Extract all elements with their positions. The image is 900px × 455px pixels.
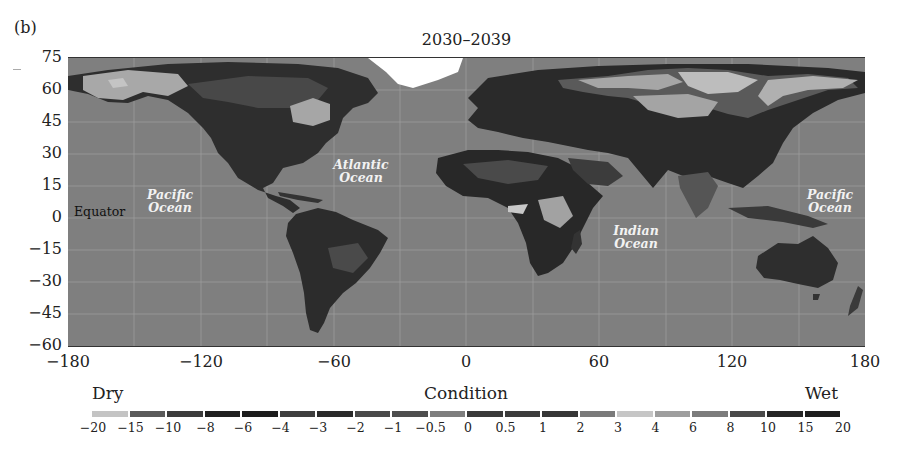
y-tick: −15 [20, 241, 62, 257]
x-tick: 0 [436, 352, 496, 371]
pacific-ocean-label-west: PacificOcean [140, 188, 200, 214]
world-map-plot: Equator PacificOcean AtlanticOcean India… [68, 57, 865, 347]
colorbar-tick: −20 [75, 420, 111, 435]
colorbar-tick: 10 [750, 420, 786, 435]
colorbar-wet-label: Wet [805, 383, 838, 403]
x-tick: 60 [569, 352, 629, 371]
colorbar-segment [542, 411, 578, 417]
colorbar-tick: 0.5 [488, 420, 524, 435]
colorbar-segment [617, 411, 653, 417]
colorbar-segment [92, 411, 128, 417]
y-tick: 30 [20, 145, 62, 161]
colorbar-tick: 6 [675, 420, 711, 435]
y-tick: 15 [20, 177, 62, 193]
colorbar-segment [280, 411, 316, 417]
colorbar-segment [242, 411, 278, 417]
colorbar-tick: 4 [638, 420, 674, 435]
colorbar-segment [467, 411, 503, 417]
colorbar-segment [430, 411, 466, 417]
x-tick: 180 [835, 352, 895, 371]
atlantic-ocean-label: AtlanticOcean [330, 158, 392, 184]
x-tick: 120 [702, 352, 762, 371]
colorbar-segment [580, 411, 616, 417]
colorbar-segment [205, 411, 241, 417]
colorbar-tick: −15 [113, 420, 149, 435]
x-tick: −60 [304, 352, 364, 371]
pacific-ocean-label-east: PacificOcean [800, 188, 860, 214]
colorbar-segment [317, 411, 353, 417]
equator-label: Equator [74, 204, 125, 219]
y-tick: 60 [20, 81, 62, 97]
colorbar-tick: 15 [788, 420, 824, 435]
y-tick: 45 [20, 113, 62, 129]
colorbar-tick: 1 [525, 420, 561, 435]
x-tick: −180 [38, 352, 98, 371]
colorbar-tick: −2 [338, 420, 374, 435]
y-tick: −60 [20, 337, 62, 353]
colorbar-tick: −6 [225, 420, 261, 435]
colorbar-ticks: −20−15−10−8−6−4−3−2−1−0.500.512346810152… [75, 420, 865, 434]
colorbar-tick: 20 [825, 420, 861, 435]
colorbar-tick: −0.5 [413, 420, 449, 435]
chart-title: 2030–2039 [0, 30, 900, 49]
y-tick: 75 [20, 49, 62, 65]
colorbar-segment [130, 411, 166, 417]
colorbar-title: Condition [424, 383, 508, 403]
colorbar-segment [505, 411, 541, 417]
x-tick: −120 [171, 352, 231, 371]
colorbar-segment [805, 411, 841, 417]
colorbar-segment [655, 411, 691, 417]
colorbar-segment [692, 411, 728, 417]
colorbar-tick: 2 [563, 420, 599, 435]
colorbar-segment [355, 411, 391, 417]
colorbar-tick: −10 [150, 420, 186, 435]
colorbar-segment [392, 411, 428, 417]
colorbar-tick: −4 [263, 420, 299, 435]
colorbar-tick: 0 [450, 420, 486, 435]
colorbar-tick: 3 [600, 420, 636, 435]
colorbar-segment [730, 411, 766, 417]
australia [756, 236, 838, 288]
colorbar-segment [767, 411, 803, 417]
colorbar-tick: −1 [375, 420, 411, 435]
colorbar-segment [167, 411, 203, 417]
colorbar-tick: 8 [713, 420, 749, 435]
y-tick: −30 [20, 273, 62, 289]
decorative-dash [13, 69, 21, 70]
y-tick: 0 [20, 209, 62, 225]
colorbar-tick: −8 [188, 420, 224, 435]
indian-ocean-label: IndianOcean [606, 224, 666, 250]
colorbar-tick: −3 [300, 420, 336, 435]
colorbar-dry-label: Dry [92, 383, 123, 403]
y-tick: −45 [20, 305, 62, 321]
colorbar [92, 411, 840, 417]
